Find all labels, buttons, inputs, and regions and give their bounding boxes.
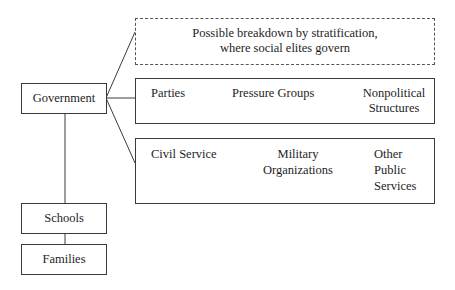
families-node: Families <box>21 244 107 275</box>
other-line3: Services <box>374 179 416 194</box>
stratification-node: Possible breakdown by stratification, wh… <box>135 18 435 65</box>
military-line1: Military <box>258 147 338 162</box>
government-node: Government <box>21 83 107 114</box>
stratification-line1: Possible breakdown by stratification, <box>136 26 434 41</box>
nonpolitical-line1: Nonpolitical <box>354 86 434 101</box>
services-node: Civil Service Military Organizations Oth… <box>135 138 435 204</box>
other-line1: Other <box>374 147 402 162</box>
edge-gov-services <box>106 98 135 163</box>
military-line2: Organizations <box>258 163 338 178</box>
parties-label: Parties <box>151 86 185 101</box>
edge-gov-stratification <box>106 32 135 98</box>
political-node: Parties Pressure Groups Nonpolitical Str… <box>135 78 435 124</box>
nonpolitical-line2: Structures <box>354 101 434 116</box>
civil-service-label: Civil Service <box>151 147 217 162</box>
government-label: Government <box>22 91 106 106</box>
families-label: Families <box>22 252 106 267</box>
schools-node: Schools <box>21 203 107 234</box>
stratification-line2: where social elites govern <box>136 41 434 56</box>
pressure-groups-label: Pressure Groups <box>232 86 314 101</box>
other-line2: Public <box>374 163 406 178</box>
schools-label: Schools <box>22 211 106 226</box>
